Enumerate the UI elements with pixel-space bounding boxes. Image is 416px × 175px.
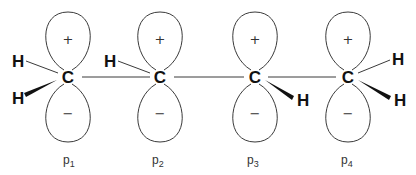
orbital-label-p4: p4 <box>341 153 353 169</box>
carbon-atom: C <box>249 68 261 87</box>
sign-positive: + <box>250 32 261 47</box>
sign-positive: + <box>343 32 354 47</box>
wedge-bond-c4-h-lower <box>358 80 391 100</box>
bond-c1-h-upper <box>26 61 58 73</box>
carbon-atom: C <box>62 68 74 87</box>
p-orbital-4: + − C H H <box>326 12 407 142</box>
orbital-label-p3: p3 <box>247 153 259 169</box>
sign-negative: − <box>343 106 354 121</box>
butadiene-p-orbital-diagram: + − C H H + − C H + − C H + − C H H <box>0 0 416 175</box>
hydrogen-atom: H <box>12 52 24 71</box>
bond-c2-h <box>118 61 150 73</box>
bond-c4-h-upper <box>358 60 390 73</box>
sign-positive: + <box>63 32 74 47</box>
p-orbital-1: + − C H H <box>12 12 90 142</box>
orbital-label-p2: p2 <box>152 153 164 169</box>
carbon-atom: C <box>342 68 354 87</box>
sign-negative: − <box>63 106 74 121</box>
hydrogen-atom: H <box>392 50 404 69</box>
sign-negative: − <box>155 106 166 121</box>
orbital-label-p1: p1 <box>63 153 75 169</box>
hydrogen-atom: H <box>12 89 24 108</box>
hydrogen-atom: H <box>104 52 116 71</box>
wedge-bond-c3-h <box>265 80 294 100</box>
hydrogen-atom: H <box>297 91 309 110</box>
sign-negative: − <box>250 106 261 121</box>
carbon-atom: C <box>154 68 166 87</box>
wedge-bond-c1-h-lower <box>24 80 57 97</box>
hydrogen-atom: H <box>394 91 406 110</box>
sign-positive: + <box>155 32 166 47</box>
